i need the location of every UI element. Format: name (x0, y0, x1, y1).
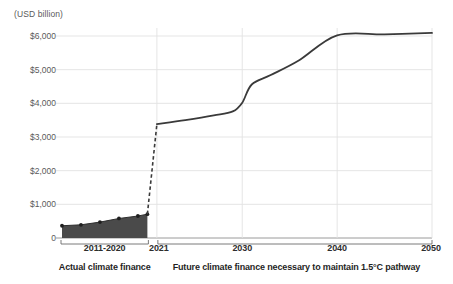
climate-finance-chart: (USD billion) 0$1,000$2,000$3,000$4,000$… (0, 0, 453, 284)
chart-plot-area (0, 0, 453, 284)
data-point-marker (117, 217, 121, 221)
x-axis-tick-label: 2011-2020 (84, 243, 126, 253)
transition-dashed-line (147, 124, 156, 214)
actual-finance-area (62, 214, 147, 238)
actual-finance-caption: Actual climate finance (59, 262, 151, 272)
future-finance-line (157, 33, 432, 124)
x-axis-tick-label: 2030 (232, 243, 252, 253)
data-point-marker (98, 220, 102, 224)
x-axis-tick-label: 2021 (149, 243, 169, 253)
x-axis-tick-label: 2050 (421, 243, 441, 253)
future-period-bracket (158, 240, 432, 244)
data-point-marker (136, 214, 140, 218)
data-point-marker (60, 224, 64, 228)
future-finance-caption: Future climate finance necessary to main… (173, 262, 420, 272)
x-axis-tick-label: 2040 (327, 243, 347, 253)
data-point-marker (79, 223, 83, 227)
